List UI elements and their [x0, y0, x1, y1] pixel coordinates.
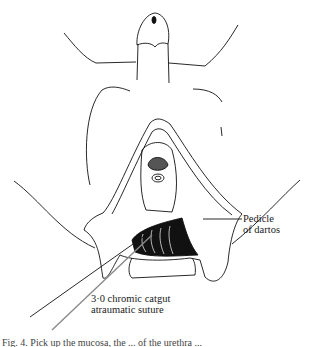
- pedicle-label-line-2: of dartos: [243, 224, 280, 235]
- figure-caption: Fig. 4. Pick up the mucosa, the ... of t…: [2, 337, 202, 347]
- shaft: [137, 44, 169, 83]
- pedicle-label-line-1: Pedicle: [243, 213, 280, 224]
- suture-label: 3·0 chromic catgut atraumatic suture: [91, 293, 170, 315]
- scrotum-outline: [86, 87, 130, 185]
- suture-label-line-1: 3·0 chromic catgut: [91, 293, 170, 304]
- meatus: [152, 17, 156, 24]
- left-thigh-upper: [64, 33, 136, 63]
- pedicle-of-dartos-label: Pedicle of dartos: [243, 213, 280, 235]
- suture-line: [52, 235, 152, 330]
- urethra-area: [141, 143, 177, 213]
- suture-label-line-2: atraumatic suture: [91, 304, 170, 315]
- right-thigh-upper: [169, 25, 238, 66]
